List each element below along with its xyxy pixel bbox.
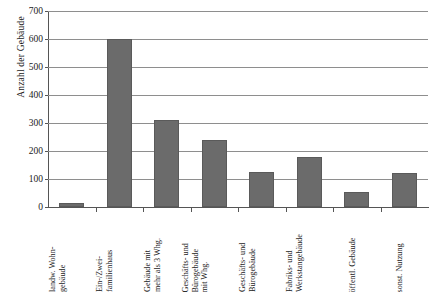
bar: [249, 172, 274, 207]
x-tick-mark: [143, 208, 144, 212]
x-axis-label-slot: landw. Wohn-gebäude: [49, 214, 95, 292]
y-tick-label: 300: [29, 118, 43, 128]
x-axis-label: öffentl. Gebäude: [347, 214, 357, 292]
x-axis-label-line: Bürogebäude: [190, 214, 200, 292]
x-axis-label-line: sonst. Nutzung: [395, 243, 404, 292]
x-axis-label: Ein-/Zwei-familienhaus: [95, 214, 114, 292]
bar: [297, 157, 322, 207]
x-axis-label-slot: Geschäfts- undBürogebäude: [239, 214, 285, 292]
x-axis-label-slot: öffentl. Gebäude: [334, 214, 380, 292]
bar: [154, 120, 179, 207]
x-axis-label: Gebäude mitmehr als 3 Whg.: [143, 214, 162, 292]
x-tick-mark: [381, 208, 382, 212]
bar: [344, 192, 369, 207]
x-axis-label: Geschäfts- undBürogebäudemit Whg.: [181, 214, 210, 292]
x-axis-label-line: Ein-/Zwei-: [95, 256, 104, 292]
x-axis-label-line: mit Whg.: [200, 214, 210, 292]
y-tick-label: 100: [29, 174, 43, 184]
x-axis-label-slot: sonst. Nutzung: [381, 214, 427, 292]
x-axis-ticks: [48, 208, 428, 212]
bar-chart-figure: Anzahl der Gebäude 010020030040050060070…: [0, 0, 434, 292]
x-axis-label-slot: Ein-/Zwei-familienhaus: [96, 214, 142, 292]
x-axis-label-line: Fabriks- und: [285, 250, 294, 292]
bar: [59, 203, 84, 207]
bar: [392, 173, 417, 207]
x-axis-label-line: Geschäfts- und: [181, 243, 190, 292]
x-axis-label-line: Gebäude mit: [143, 250, 152, 292]
x-tick-mark: [191, 208, 192, 212]
x-axis-label: Fabriks- undWerkstangebäude: [285, 214, 304, 292]
x-tick-mark: [286, 208, 287, 212]
y-tick-label: 0: [38, 202, 43, 212]
bar: [202, 140, 227, 207]
x-axis-label: sonst. Nutzung: [395, 214, 405, 292]
x-axis-label-line: mehr als 3 Whg.: [152, 214, 162, 292]
x-axis-label: Geschäfts- undBürogebäude: [238, 214, 257, 292]
x-axis-label: landw. Wohn-gebäude: [48, 214, 67, 292]
x-axis-label-line: Bürogebäude: [247, 214, 257, 292]
x-tick-mark: [333, 208, 334, 212]
y-tick-label: 700: [29, 6, 43, 16]
y-tick-label: 600: [29, 34, 43, 44]
y-axis-title: Anzahl der Gebäude: [16, 0, 26, 132]
x-axis-category-labels: landw. Wohn-gebäudeEin-/Zwei-familienhau…: [48, 214, 428, 292]
x-axis-label-slot: Geschäfts- undBürogebäudemit Whg.: [191, 214, 237, 292]
x-axis-label-slot: Fabriks- undWerkstangebäude: [286, 214, 332, 292]
x-axis-label-line: Werkstangebäude: [295, 214, 305, 292]
y-tick-label: 200: [29, 146, 43, 156]
x-axis-label-line: Geschäfts- und: [238, 243, 247, 292]
x-tick-mark: [96, 208, 97, 212]
x-axis-label-line: landw. Wohn-: [48, 246, 57, 292]
x-axis-label-line: öffentl. Gebäude: [347, 237, 356, 292]
bars-group: [48, 11, 428, 207]
x-tick-mark: [238, 208, 239, 212]
bar: [107, 39, 132, 207]
x-axis-label-line: gebäude: [57, 214, 67, 292]
y-tick-label: 500: [29, 62, 43, 72]
y-tick-label: 400: [29, 90, 43, 100]
x-axis-label-line: familienhaus: [105, 214, 115, 292]
